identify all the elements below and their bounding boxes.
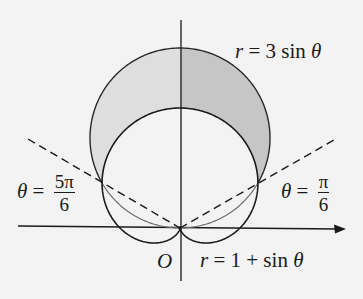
label-ray-left-eq: = — [27, 179, 49, 203]
label-circle-theta: θ — [311, 39, 321, 63]
fraction-numerator: 5π — [54, 172, 75, 193]
label-circle-eq: = 3 sin — [243, 39, 311, 63]
fraction-denominator: 6 — [59, 193, 69, 214]
label-ray-right-theta: θ — [281, 179, 291, 203]
fraction-5pi-6: 5π6 — [54, 172, 75, 214]
label-ray-5pi-6: θ = 5π6 — [17, 172, 75, 214]
label-circle-equation: r = 3 sin θ — [235, 41, 321, 62]
label-cardioid-equation: r = 1 + sin θ — [200, 250, 303, 271]
label-cardioid-r: r — [200, 248, 208, 272]
label-origin: O — [157, 251, 172, 272]
fraction-denominator: 6 — [319, 193, 329, 214]
x-axis-arrowhead-icon — [334, 225, 346, 234]
circle-lower-arcs — [102, 183, 258, 228]
label-cardioid-theta: θ — [293, 248, 303, 272]
label-ray-left-theta: θ — [17, 179, 27, 203]
label-circle-r: r — [235, 39, 243, 63]
label-ray-pi-6: θ = π6 — [281, 172, 329, 214]
fraction-numerator: π — [318, 172, 330, 193]
label-cardioid-eq: = 1 + sin — [208, 248, 293, 272]
label-ray-right-eq: = — [291, 179, 313, 203]
fraction-pi-6: π6 — [318, 172, 330, 214]
origin-point — [178, 226, 182, 230]
